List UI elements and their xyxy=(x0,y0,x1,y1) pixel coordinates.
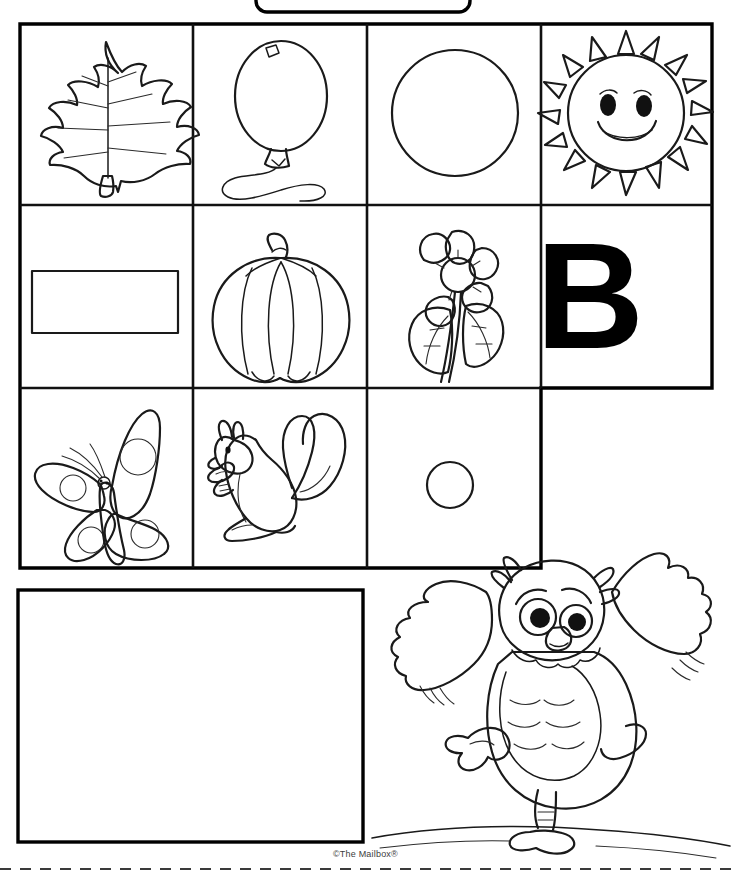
grid-cell-r2c4[interactable] xyxy=(541,205,712,388)
name-box[interactable] xyxy=(256,0,470,12)
copyright-credit: ©The Mailbox® xyxy=(333,849,398,859)
grid-cell-r2c2[interactable] xyxy=(193,205,367,388)
grid-cell-r3c3[interactable] xyxy=(367,388,541,568)
grid-cell-r1c2[interactable] xyxy=(193,24,367,205)
grid-cell-r1c4[interactable] xyxy=(541,24,712,205)
owl-illustration xyxy=(372,553,730,858)
grid-cell-r2c3[interactable] xyxy=(367,205,541,388)
grid-cell-r2c1[interactable] xyxy=(20,205,193,388)
grid-cell-r3c2[interactable] xyxy=(193,388,367,568)
worksheet-page: B xyxy=(0,0,735,875)
grid-cell-r1c1[interactable] xyxy=(20,24,193,205)
grid-cell-r1c3[interactable] xyxy=(367,24,541,205)
answer-box[interactable] xyxy=(18,590,363,842)
grid-cell-r3c1[interactable] xyxy=(20,388,193,568)
